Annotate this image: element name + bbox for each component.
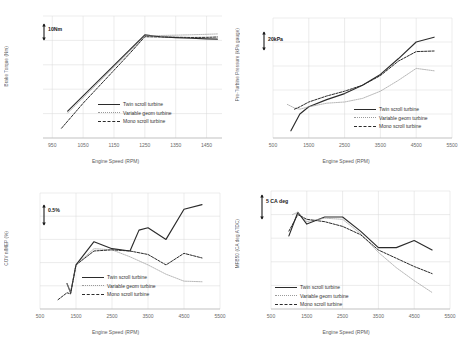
legend-label-mono: Mono scroll turbine — [123, 118, 165, 124]
svg-text:950: 950 — [48, 142, 57, 148]
legend-item-twin: Twin scroll turbine — [82, 273, 156, 282]
panel-cov-nimep-scalebar-label: 0.5% — [48, 207, 60, 213]
svg-text:500: 500 — [267, 313, 276, 319]
panel-brake-torque: Brake Torque (Nm) 9501050115012501350145… — [0, 0, 231, 171]
svg-text:1250: 1250 — [139, 142, 150, 148]
svg-text:5500: 5500 — [444, 313, 455, 319]
legend-label-mono: Mono scroll turbine — [300, 301, 342, 307]
legend-line-dotted-icon — [275, 295, 297, 296]
svg-text:1050: 1050 — [78, 142, 89, 148]
legend-item-vgt: Variable geom turbine — [275, 292, 349, 301]
svg-text:4500: 4500 — [178, 313, 189, 319]
svg-text:3500: 3500 — [142, 313, 153, 319]
panel-mfb50: MFB50 (CA deg ATDC) 50015002500350045005… — [231, 171, 461, 342]
legend-item-vgt: Variable geom turbine — [82, 282, 156, 291]
legend-label-twin: Twin scroll turbine — [107, 274, 147, 280]
legend-line-dashed-icon — [98, 121, 120, 122]
panel-pre-turbine-pressure: Pre-Turbine Pressure (kPa gauge) 5001500… — [231, 0, 461, 171]
legend-line-solid-icon — [275, 287, 297, 288]
svg-text:5500: 5500 — [214, 313, 225, 319]
legend-label-vgt: Variable geom turbine — [107, 283, 156, 289]
legend-item-twin: Twin scroll turbine — [354, 105, 428, 114]
svg-text:1350: 1350 — [170, 142, 181, 148]
panel-pre-turbine-pressure-plot: 50015002500350045005500 — [231, 0, 461, 171]
panel-brake-torque-plot: 95010501150125013501450 — [0, 0, 231, 171]
legend-line-solid-icon — [82, 277, 104, 278]
legend-line-dotted-icon — [98, 112, 120, 113]
svg-text:500: 500 — [269, 142, 278, 148]
svg-text:500: 500 — [36, 313, 45, 319]
svg-text:5500: 5500 — [446, 142, 457, 148]
panel-pre-turbine-pressure-legend: Twin scroll turbine Variable geom turbin… — [354, 105, 428, 131]
legend-item-vgt: Variable geom turbine — [354, 114, 428, 123]
legend-label-mono: Mono scroll turbine — [379, 123, 421, 129]
panel-brake-torque-legend: Twin scroll turbine Variable geom turbin… — [98, 100, 172, 126]
legend-line-dashed-icon — [354, 126, 376, 127]
legend-label-vgt: Variable geom turbine — [300, 293, 349, 299]
panel-brake-torque-scalebar-label: 10Nm — [48, 26, 62, 32]
legend-label-vgt: Variable geom turbine — [123, 110, 172, 116]
svg-text:1450: 1450 — [201, 142, 212, 148]
panel-mfb50-scalebar-label: 5 CA deg — [266, 198, 288, 204]
legend-line-dotted-icon — [82, 285, 104, 286]
panel-brake-torque-xlabel: Engine Speed (RPM) — [0, 158, 231, 164]
svg-text:1500: 1500 — [303, 142, 314, 148]
panel-mfb50-xlabel: Engine Speed (RPM) — [231, 329, 461, 335]
legend-item-vgt: Variable geom turbine — [98, 109, 172, 118]
panel-pre-turbine-pressure-scalebar-label: 20kPa — [268, 36, 283, 42]
svg-text:4500: 4500 — [409, 313, 420, 319]
svg-text:2500: 2500 — [106, 313, 117, 319]
legend-label-twin: Twin scroll turbine — [300, 284, 340, 290]
legend-label-twin: Twin scroll turbine — [379, 106, 419, 112]
legend-label-mono: Mono scroll turbine — [107, 291, 149, 297]
panel-cov-nimep-xlabel: Engine Speed (RPM) — [0, 329, 231, 335]
legend-item-twin: Twin scroll turbine — [275, 283, 349, 292]
svg-text:2500: 2500 — [339, 142, 350, 148]
legend-item-mono: Mono scroll turbine — [275, 300, 349, 309]
panel-cov-nimep: COV nIMEP (%) 50015002500350045005500 0.… — [0, 171, 231, 342]
svg-text:1500: 1500 — [301, 313, 312, 319]
legend-line-solid-icon — [98, 104, 120, 105]
panel-mfb50-plot: 50015002500350045005500 — [231, 171, 461, 342]
legend-item-mono: Mono scroll turbine — [82, 290, 156, 299]
legend-item-mono: Mono scroll turbine — [98, 117, 172, 126]
legend-item-twin: Twin scroll turbine — [98, 100, 172, 109]
svg-text:1500: 1500 — [70, 313, 81, 319]
panel-cov-nimep-plot: 50015002500350045005500 — [0, 171, 231, 342]
panel-mfb50-legend: Twin scroll turbine Variable geom turbin… — [275, 283, 349, 309]
legend-label-twin: Twin scroll turbine — [123, 101, 163, 107]
legend-line-dashed-icon — [82, 294, 104, 295]
svg-text:2500: 2500 — [337, 313, 348, 319]
figure-panel-grid: Brake Torque (Nm) 9501050115012501350145… — [0, 0, 461, 342]
legend-label-vgt: Variable geom turbine — [379, 115, 428, 121]
svg-text:4500: 4500 — [411, 142, 422, 148]
svg-text:3500: 3500 — [373, 313, 384, 319]
panel-pre-turbine-pressure-xlabel: Engine Speed (RPM) — [231, 158, 461, 164]
svg-text:3500: 3500 — [375, 142, 386, 148]
legend-line-dashed-icon — [275, 304, 297, 305]
svg-text:1150: 1150 — [109, 142, 120, 148]
legend-line-solid-icon — [354, 109, 376, 110]
legend-line-dotted-icon — [354, 117, 376, 118]
legend-item-mono: Mono scroll turbine — [354, 122, 428, 131]
panel-cov-nimep-legend: Twin scroll turbine Variable geom turbin… — [82, 273, 156, 299]
